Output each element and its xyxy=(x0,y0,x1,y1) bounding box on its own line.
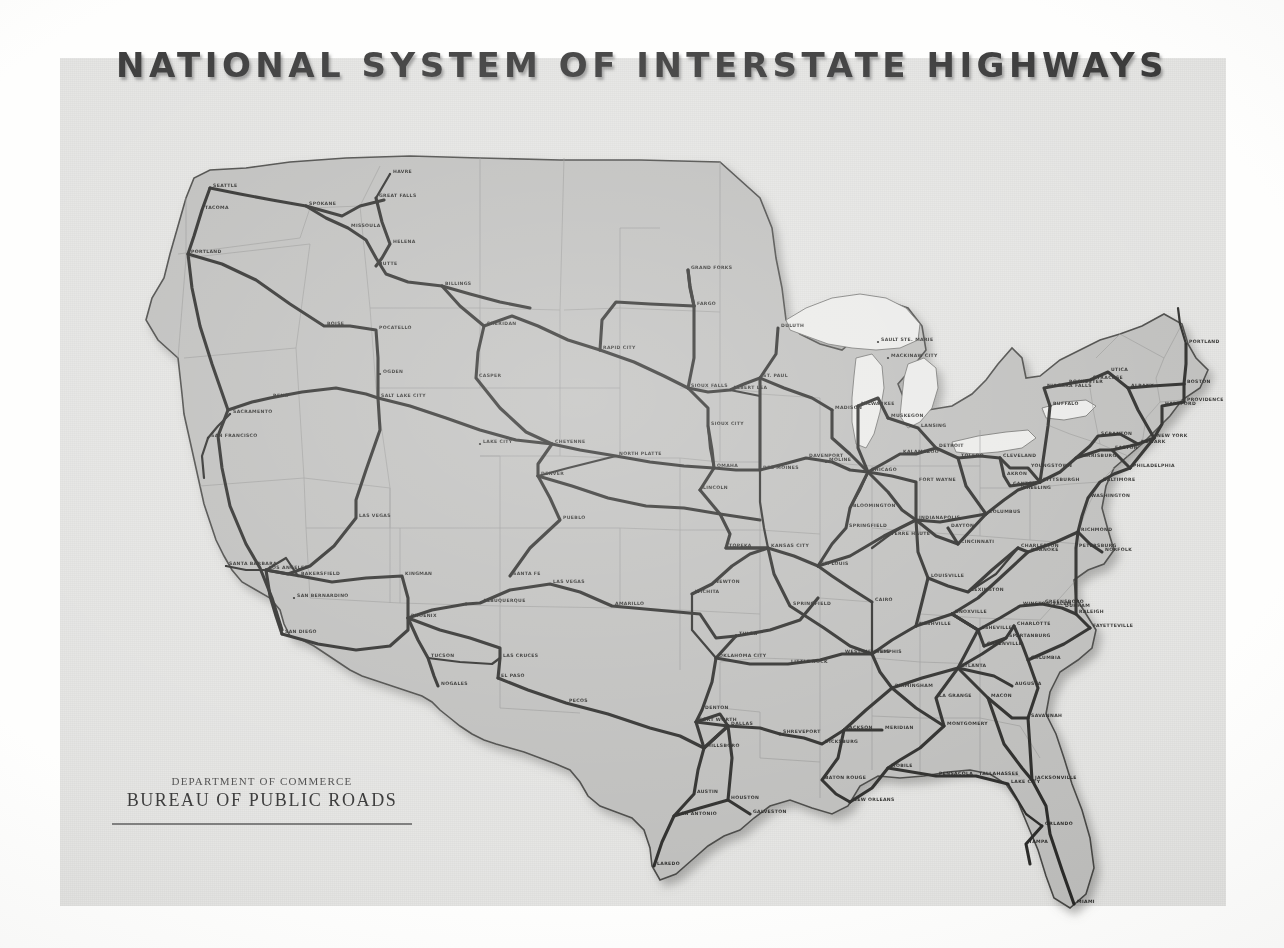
city-label-text: SEATTLE xyxy=(213,183,238,188)
city-label-text: BILLINGS xyxy=(445,281,472,286)
city-label-text: SACRAMENTO xyxy=(233,409,272,414)
city-label-text: SIOUX CITY xyxy=(711,421,744,426)
city-dot xyxy=(1111,449,1113,451)
city-dot xyxy=(777,327,779,329)
city-label-text: LAREDO xyxy=(657,861,680,866)
city-label: MIAMI xyxy=(1073,899,1095,906)
city-dot xyxy=(983,645,985,647)
city-label-text: RALEIGH xyxy=(1079,609,1104,614)
city-dot xyxy=(759,377,761,379)
city-label-text: BOISE xyxy=(327,321,344,326)
city-label-text: SPARTANBURG xyxy=(1009,633,1051,638)
city-dot xyxy=(1017,547,1019,549)
city-label-text: EL PASO xyxy=(501,673,525,678)
city-dot xyxy=(887,417,889,419)
city-label-text: SAN BERNARDINO xyxy=(297,593,349,598)
city-dot xyxy=(1027,659,1029,661)
city-dot xyxy=(927,577,929,579)
city-dot xyxy=(1061,607,1063,609)
credit-underline xyxy=(112,823,412,825)
city-label-text: NORTH PLATTE xyxy=(619,451,662,456)
city-label-text: NOGALES xyxy=(441,681,468,686)
city-label-text: NASHVILLE xyxy=(919,621,951,626)
city-label-text: SALT LAKE CITY xyxy=(381,393,426,398)
city-dot xyxy=(1185,343,1187,345)
city-dot xyxy=(1065,383,1067,385)
city-label-text: HAVRE xyxy=(393,169,412,174)
city-dot xyxy=(877,341,879,343)
city-label-text: DENVER xyxy=(541,471,564,476)
city-dot xyxy=(935,697,937,699)
city-dot xyxy=(599,349,601,351)
city-dot xyxy=(975,775,977,777)
city-label-text: MACKINAW CITY xyxy=(891,353,938,358)
city-label-text: MONTGOMERY xyxy=(947,721,988,726)
city-dot xyxy=(701,709,703,711)
city-dot xyxy=(1049,405,1051,407)
city-dot xyxy=(871,653,873,655)
city-label-text: COLUMBIA xyxy=(1031,655,1061,660)
city-dot xyxy=(293,597,295,599)
city-dot xyxy=(1087,497,1089,499)
city-dot xyxy=(1153,437,1155,439)
city-dot xyxy=(479,443,481,445)
city-label-text: SYRACUSE xyxy=(1093,375,1123,380)
city-label-text: MERIDIAN xyxy=(885,725,914,730)
city-dot xyxy=(957,543,959,545)
city-label-text: PHOENIX xyxy=(411,613,437,618)
city-dot xyxy=(845,527,847,529)
city-label-text: KINGMAN xyxy=(405,571,432,576)
city-dot xyxy=(881,729,883,731)
city-dot xyxy=(849,801,851,803)
city-dot xyxy=(789,605,791,607)
city-dot xyxy=(229,413,231,415)
city-dot xyxy=(611,605,613,607)
city-dot xyxy=(687,269,689,271)
city-label-text: NEWTON xyxy=(715,579,740,584)
city-dot xyxy=(1099,481,1101,483)
city-dot xyxy=(725,547,727,549)
city-dot xyxy=(499,657,501,659)
city-label-text: TOLEDO xyxy=(961,453,984,458)
city-label-text: TAMPA xyxy=(1029,839,1048,844)
city-label-text: SPOKANE xyxy=(309,201,336,206)
city-dot xyxy=(821,743,823,745)
city-dot xyxy=(857,405,859,407)
city-label-text: PETERSBURG xyxy=(1079,543,1117,548)
city-dot xyxy=(549,583,551,585)
city-dot xyxy=(427,657,429,659)
city-dot xyxy=(999,457,1001,459)
city-label-text: RENO xyxy=(273,393,289,398)
city-dot xyxy=(379,373,381,375)
city-label-text: BALTIMORE xyxy=(1103,477,1135,482)
city-dot xyxy=(711,583,713,585)
city-dot xyxy=(849,507,851,509)
city-label-text: LITTLE ROCK xyxy=(791,659,828,664)
city-label-text: AUGUSTA xyxy=(1015,681,1042,686)
city-dot xyxy=(1009,485,1011,487)
city-label-text: MIAMI xyxy=(1077,899,1095,904)
city-dot xyxy=(1007,783,1009,785)
city-label-text: PECOS xyxy=(569,698,588,703)
city-label-text: TUCSON xyxy=(431,653,454,658)
city-label-text: LAS VEGAS xyxy=(553,579,585,584)
city-label-text: WASHINGTON xyxy=(1091,493,1130,498)
city-dot xyxy=(787,663,789,665)
city-dot xyxy=(887,357,889,359)
city-label-text: INDIANAPOLIS xyxy=(919,515,960,520)
city-label-text: EASTON xyxy=(1115,445,1138,450)
city-dot xyxy=(1129,467,1131,469)
city-dot xyxy=(551,443,553,445)
city-label-text: LAS VEGAS xyxy=(359,513,391,518)
city-label-text: GALVESTON xyxy=(753,809,787,814)
city-dot xyxy=(615,455,617,457)
city-dot xyxy=(1031,779,1033,781)
city-label-text: ST. PAUL xyxy=(763,373,788,378)
city-dot xyxy=(201,209,203,211)
city-label-text: LAKE CITY xyxy=(483,439,513,444)
city-label-text: TOPEKA xyxy=(729,543,752,548)
city-dot xyxy=(841,653,843,655)
city-dot xyxy=(1075,613,1077,615)
bureau-line: BUREAU OF PUBLIC ROADS xyxy=(112,790,412,811)
city-label-text: FAYETTEVILLE xyxy=(1093,623,1133,628)
